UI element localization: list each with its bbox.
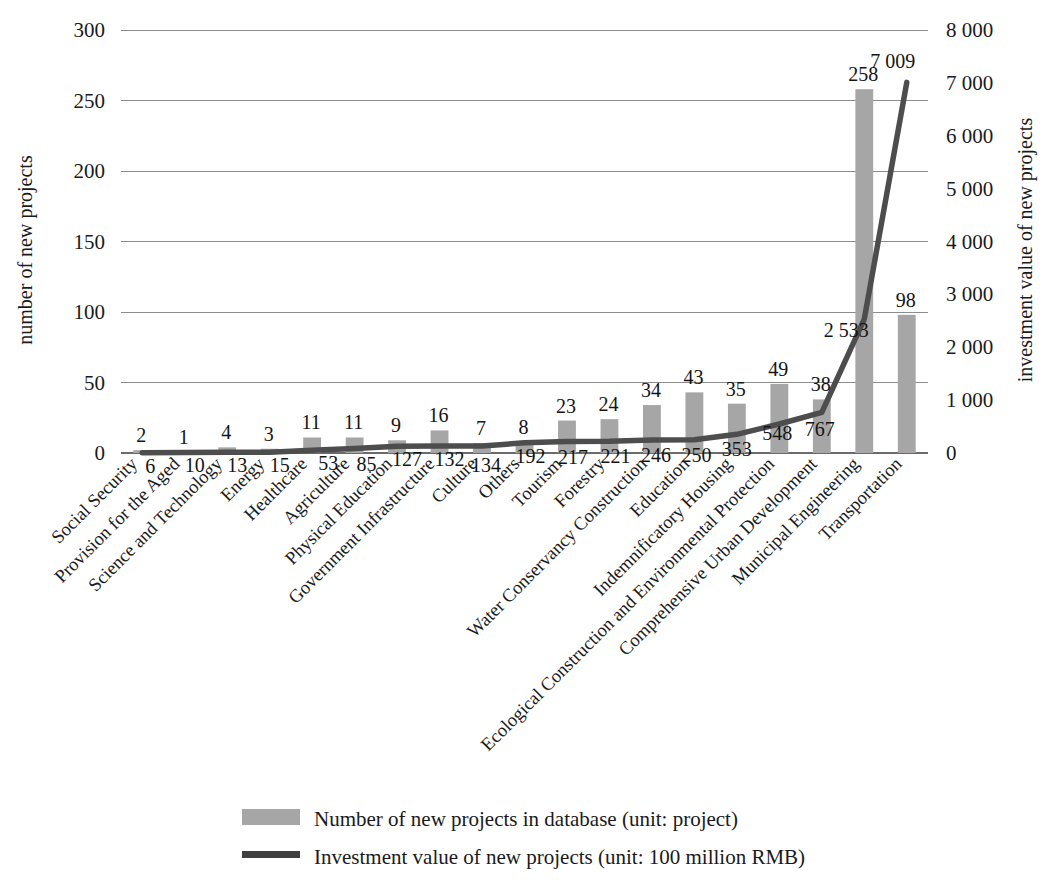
- y2-axis-tick-label: 3 000: [946, 282, 993, 306]
- y2-axis-title: investment value of new projects: [1014, 118, 1037, 383]
- left-axis-ticks: 050100150200250300: [74, 18, 106, 465]
- line-value-label: 2 533: [824, 319, 869, 341]
- y2-axis-tick-label: 5 000: [946, 177, 993, 201]
- bar: [898, 315, 916, 453]
- legend: Number of new projects in database (unit…: [242, 807, 805, 869]
- line-data-labels: 6101315538512713213419221722124625035354…: [145, 50, 915, 476]
- investment-value-line: [142, 82, 907, 452]
- bar-value-label: 34: [641, 379, 661, 401]
- legend-item: Investment value of new projects (unit: …: [242, 845, 805, 869]
- bar-value-label: 49: [768, 358, 788, 380]
- bar-value-label: 38: [811, 373, 831, 395]
- bar-value-label: 35: [726, 378, 746, 400]
- bar-value-label: 9: [391, 414, 401, 436]
- legend-label: Number of new projects in database (unit…: [314, 807, 738, 831]
- bar-value-label: 24: [598, 393, 618, 415]
- bar-value-label: 2: [136, 424, 146, 446]
- chart-container: 050100150200250300 01 0002 0003 0004 000…: [0, 0, 1054, 886]
- legend-label: Investment value of new projects (unit: …: [314, 845, 805, 869]
- y2-axis-tick-label: 1 000: [946, 388, 993, 412]
- y-axis-tick-label: 200: [74, 159, 106, 183]
- y-axis-tick-label: 150: [74, 230, 106, 254]
- line-value-label: 353: [722, 438, 752, 460]
- y-axis-tick-label: 250: [74, 89, 106, 113]
- y-axis-tick-label: 50: [84, 371, 105, 395]
- bar-value-label: 1: [179, 426, 189, 448]
- y-axis-tick-label: 100: [74, 300, 106, 324]
- line-value-label: 7 009: [870, 50, 915, 72]
- line-series-group: [142, 82, 907, 452]
- bar-value-label: 3: [264, 423, 274, 445]
- y2-axis-tick-label: 6 000: [946, 124, 993, 148]
- bar-value-label: 4: [221, 421, 231, 443]
- y-axis-tick-label: 300: [74, 18, 106, 42]
- legend-line-swatch: [242, 851, 300, 858]
- bar-value-label: 23: [556, 395, 576, 417]
- y2-axis-tick-label: 7 000: [946, 71, 993, 95]
- combo-chart: 050100150200250300 01 0002 0003 0004 000…: [0, 0, 1054, 886]
- bar-value-label: 43: [683, 366, 703, 388]
- bars-group: [133, 89, 915, 453]
- bar-value-label: 11: [344, 411, 363, 433]
- line-value-label: 767: [805, 418, 835, 440]
- y2-axis-tick-label: 8 000: [946, 18, 993, 42]
- y2-axis-tick-label: 4 000: [946, 230, 993, 254]
- bar-data-labels: 21431111916782324344335493825898: [136, 63, 916, 447]
- gridlines-group: [121, 30, 928, 453]
- bar-value-label: 7: [476, 417, 486, 439]
- y2-axis-tick-label: 0: [946, 441, 957, 465]
- bar-value-label: 98: [896, 289, 916, 311]
- y2-axis-tick-label: 2 000: [946, 335, 993, 359]
- legend-item: Number of new projects in database (unit…: [242, 807, 738, 831]
- y-axis-title: number of new projects: [14, 155, 37, 345]
- bar-value-label: 11: [301, 411, 320, 433]
- right-axis-ticks: 01 0002 0003 0004 0005 0006 0007 0008 00…: [946, 18, 993, 465]
- bar-value-label: 16: [429, 404, 449, 426]
- line-value-label: 548: [762, 422, 792, 444]
- legend-bar-swatch: [242, 809, 300, 825]
- bar-value-label: 8: [519, 416, 529, 438]
- category-labels: Social SecurityProvision for the AgedSci…: [47, 453, 905, 755]
- y-axis-tick-label: 0: [95, 441, 106, 465]
